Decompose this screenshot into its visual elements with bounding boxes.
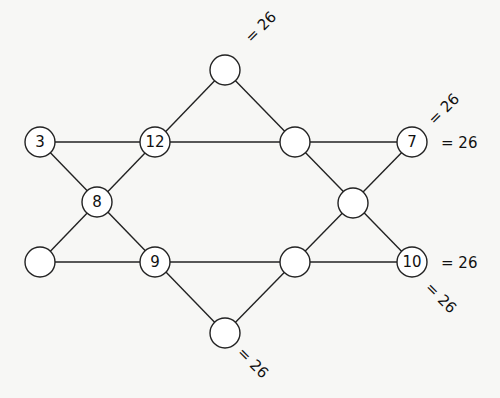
- node-value: 7: [407, 133, 417, 151]
- node-8[interactable]: 8: [82, 187, 112, 217]
- node-bottom-right-inner[interactable]: [280, 247, 310, 277]
- node-value: 12: [145, 133, 164, 151]
- node-9[interactable]: 9: [140, 247, 170, 277]
- node-value: 3: [35, 133, 45, 151]
- edge-diag-right-up: [225, 142, 412, 333]
- node-value: 8: [92, 193, 102, 211]
- node-top[interactable]: [210, 55, 240, 85]
- sum-label-right-diagonal-down: = 26: [422, 279, 460, 317]
- edge-diag-left-down: [40, 142, 225, 333]
- node-7[interactable]: 7: [397, 127, 427, 157]
- sum-label-top-row: = 26: [441, 134, 477, 152]
- sum-label-bottom-row: = 26: [441, 254, 477, 272]
- node-bottom-left[interactable]: [25, 247, 55, 277]
- sum-label-right-diagonal-up: = 26: [425, 90, 463, 128]
- node-3[interactable]: 3: [25, 127, 55, 157]
- star-puzzle-diagram: 3 12 7 8 9 10 = 26 = 26 = 26 =: [0, 0, 500, 398]
- node-bottom[interactable]: [210, 318, 240, 348]
- sum-label-top-diagonal: = 26: [242, 8, 280, 46]
- edge-diag-left-up: [40, 70, 225, 262]
- node-top-right-inner[interactable]: [280, 127, 310, 157]
- node-10[interactable]: 10: [397, 247, 427, 277]
- node-value: 9: [150, 253, 160, 271]
- sum-label-bottom-diagonal: = 26: [234, 344, 272, 382]
- edge-diag-right-down: [225, 70, 412, 262]
- node-12[interactable]: 12: [140, 127, 170, 157]
- node-value: 10: [402, 253, 421, 271]
- node-right-middle[interactable]: [338, 188, 368, 218]
